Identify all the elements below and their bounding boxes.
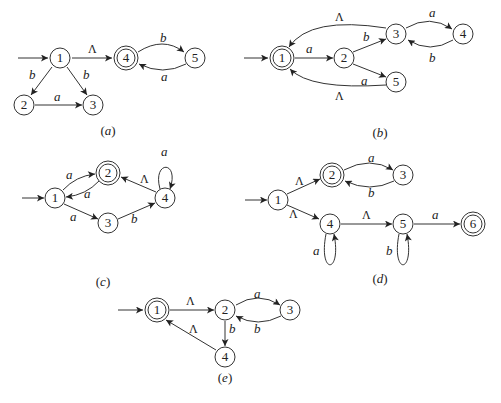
state-1: 1 [268,190,288,210]
state-2: 2 [14,95,34,115]
svg-text:5: 5 [400,216,407,231]
svg-text:4: 4 [460,26,467,41]
edge-5-5-loop [397,234,408,265]
automata-figure: Λ b b a b a 1 2 3 4 [0,0,501,403]
edge-label: Λ [362,208,371,222]
diagram-b: a b a a b Λ Λ 1 2 3 4 [244,5,473,140]
edge-4-4-loop [159,167,173,189]
edge-4-5 [138,44,184,52]
state-4: 4 [215,347,235,367]
svg-text:3: 3 [90,97,97,112]
edge-label: Λ [289,207,298,221]
diagram-d: Λ Λ a b Λ a b a 1 2 3 [245,150,485,286]
svg-text:3: 3 [393,26,400,41]
edge-label: b [429,50,436,65]
state-6-accepting: 6 [461,212,485,236]
edge-label: a [313,243,320,258]
svg-text:1: 1 [57,50,64,65]
edge-label: b [229,321,236,336]
svg-text:2: 2 [222,302,229,317]
edge-label: Λ [140,172,149,186]
caption-b: (b) [372,125,387,140]
svg-text:2: 2 [105,165,112,180]
edge-label: a [161,144,168,159]
edge-label: a [368,150,375,165]
edge-label: Λ [335,10,344,24]
edge-label: b [363,29,370,44]
svg-text:2: 2 [329,167,336,182]
caption-d: (d) [372,271,387,286]
edge-label: b [83,67,90,82]
edge-label: a [306,41,313,56]
svg-text:2: 2 [341,50,348,65]
edge-label: b [160,30,167,45]
edge-label: Λ [186,294,195,308]
edge-label: a [84,186,91,201]
svg-text:1: 1 [279,50,286,65]
svg-text:5: 5 [393,74,400,89]
state-2-accepting: 2 [96,161,120,185]
edge-4-2 [121,177,156,192]
state-4: 4 [453,24,473,44]
state-5: 5 [393,214,413,234]
edge-label: a [432,207,439,222]
state-1: 1 [45,188,65,208]
edge-label: Λ [295,174,304,188]
svg-text:2: 2 [21,97,28,112]
state-4: 4 [320,214,340,234]
caption-c: (c) [96,274,110,289]
caption-a: (a) [100,123,115,138]
svg-text:3: 3 [287,302,294,317]
state-2: 2 [215,300,235,320]
svg-text:1: 1 [154,302,161,317]
svg-text:3: 3 [400,167,407,182]
state-3: 3 [280,300,300,320]
edge-label: b [386,243,393,258]
svg-text:4: 4 [327,216,334,231]
edge-3-1 [289,25,386,47]
state-3: 3 [98,213,118,233]
edge-label: a [54,89,61,104]
state-2-accepting: 2 [320,163,344,187]
edge-2-3 [353,39,386,52]
diagram-c: a a a b Λ a 1 2 3 4 (c) [22,144,175,289]
state-1-accepting: 1 [145,298,169,322]
state-3: 3 [83,95,103,115]
state-1-accepting: 1 [270,46,294,70]
svg-text:3: 3 [105,215,112,230]
edge-label: a [161,69,168,84]
edge-4-3 [408,40,453,47]
edge-label: Λ [335,89,344,103]
edge-label: b [254,321,261,336]
caption-e: (e) [218,370,232,385]
svg-text:4: 4 [123,50,130,65]
svg-text:1: 1 [52,190,59,205]
svg-text:1: 1 [275,192,282,207]
edge-4-4-loop [324,234,335,265]
state-3: 3 [386,24,406,44]
state-4: 4 [155,188,175,208]
svg-text:4: 4 [162,190,169,205]
edge-label: b [131,211,138,226]
svg-text:5: 5 [192,50,199,65]
state-2: 2 [334,48,354,68]
state-3: 3 [393,165,413,185]
edge-3-4 [406,21,452,29]
diagram-a: Λ b b a b a 1 2 3 4 [14,30,205,138]
state-5: 5 [185,48,205,68]
edge-label: Λ [88,42,97,56]
state-4-accepting: 4 [114,46,138,70]
diagram-e: Λ a b b Λ 1 2 3 4 (e) [118,286,300,385]
edge-label: a [70,209,77,224]
edge-label: b [368,185,375,200]
edge-2-5 [353,64,386,77]
edge-label: a [66,167,73,182]
svg-text:4: 4 [222,349,229,364]
state-5: 5 [386,72,406,92]
edge-label: Λ [189,322,198,336]
state-1: 1 [50,48,70,68]
edge-label: b [29,67,36,82]
edge-label: a [254,286,261,301]
edge-label: a [429,5,436,20]
svg-text:6: 6 [470,216,477,231]
